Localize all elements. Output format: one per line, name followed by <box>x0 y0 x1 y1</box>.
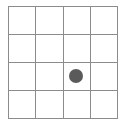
grid-cell[interactable] <box>8 90 36 119</box>
grid-cell[interactable] <box>35 90 63 119</box>
grid-cell[interactable] <box>35 62 63 91</box>
grid-cell[interactable] <box>90 62 118 91</box>
grid-cell[interactable] <box>8 6 36 35</box>
grid-cell[interactable] <box>90 34 118 63</box>
grid-cell[interactable] <box>63 6 91 35</box>
grid-cell[interactable] <box>8 62 36 91</box>
grid-cell[interactable] <box>8 34 36 63</box>
game-board <box>8 6 117 118</box>
grid-cell[interactable] <box>63 90 91 119</box>
grid-cell[interactable] <box>63 34 91 63</box>
grid-cell[interactable] <box>35 34 63 63</box>
grid-cell[interactable] <box>35 6 63 35</box>
grid-cell[interactable] <box>90 90 118 119</box>
grid-cell[interactable] <box>90 6 118 35</box>
